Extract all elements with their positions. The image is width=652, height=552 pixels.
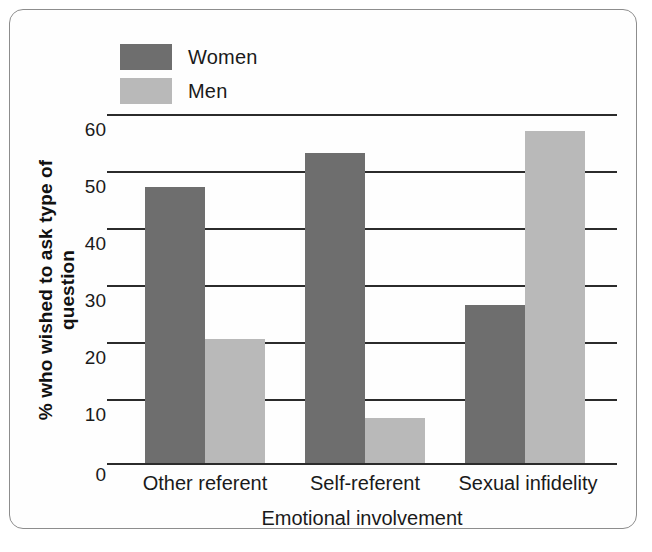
bar-men-self-referent[interactable] bbox=[365, 418, 425, 463]
x-axis-baseline bbox=[107, 463, 617, 465]
legend-swatch-men bbox=[120, 78, 172, 104]
y-tick-50: 50 bbox=[85, 176, 106, 198]
bar-women-sexual-infidelity[interactable] bbox=[465, 305, 525, 463]
x-axis-tick-labels: Other referent Self-referent Sexual infi… bbox=[107, 472, 617, 502]
y-tick-10: 10 bbox=[85, 404, 106, 426]
legend-item-men: Men bbox=[120, 74, 340, 108]
bar-men-sexual-infidelity[interactable] bbox=[525, 131, 585, 463]
chart-plot-area bbox=[107, 114, 617, 467]
bar-women-self-referent[interactable] bbox=[305, 153, 365, 463]
bar-group-sexual-infidelity bbox=[465, 114, 585, 463]
chart-bar-groups bbox=[107, 114, 617, 463]
x-tick-other-referent: Other referent bbox=[125, 472, 285, 495]
x-axis-title: Emotional involvement bbox=[107, 507, 617, 530]
legend-item-women: Women bbox=[120, 40, 340, 74]
bar-men-other-referent[interactable] bbox=[205, 339, 265, 463]
bar-women-other-referent[interactable] bbox=[145, 187, 205, 463]
chart-legend: Women Men bbox=[120, 40, 340, 108]
y-axis-tick-labels: 60 50 40 30 20 10 0 bbox=[72, 114, 106, 467]
x-tick-sexual-infidelity: Sexual infidelity bbox=[443, 472, 613, 495]
y-tick-40: 40 bbox=[85, 233, 106, 255]
y-tick-30: 30 bbox=[85, 290, 106, 312]
bar-group-other-referent bbox=[145, 114, 265, 463]
bar-group-self-referent bbox=[305, 114, 425, 463]
y-tick-60: 60 bbox=[85, 119, 106, 141]
x-tick-self-referent: Self-referent bbox=[285, 472, 445, 495]
y-tick-20: 20 bbox=[85, 347, 106, 369]
legend-label-women: Women bbox=[188, 46, 258, 69]
legend-label-men: Men bbox=[188, 80, 228, 103]
chart-figure-frame: Women Men % who wished to ask type of qu… bbox=[9, 9, 637, 529]
y-tick-0: 0 bbox=[95, 464, 106, 486]
legend-swatch-women bbox=[120, 44, 172, 70]
